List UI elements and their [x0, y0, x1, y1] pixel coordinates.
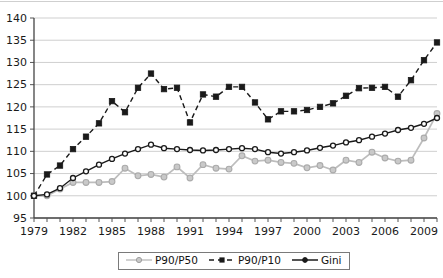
legend-label-p90p10: P90/P10 — [238, 255, 281, 266]
datapoint-p90-p10-1990 — [174, 85, 179, 90]
datapoint-p90-p50-1990 — [174, 164, 180, 170]
datapoint-gini-1994 — [227, 147, 232, 152]
datapoint-p90-p10-1994 — [226, 84, 231, 89]
datapoint-gini-1992 — [201, 148, 206, 153]
datapoint-gini-1987 — [136, 147, 141, 152]
xtick-label: 2000 — [293, 225, 321, 238]
datapoint-p90-p50-2003 — [343, 157, 349, 163]
ytick-label: 105 — [6, 167, 27, 180]
datapoint-gini-2009 — [422, 121, 427, 126]
ytick-label: 110 — [6, 145, 27, 158]
datapoint-p90-p50-2008 — [408, 157, 414, 163]
datapoint-p90-p10-1988 — [148, 71, 153, 76]
xtick-label: 1997 — [254, 225, 282, 238]
datapoint-p90-p50-1991 — [187, 175, 193, 181]
chart-legend: P90/P50 P90/P10 Gini — [118, 252, 350, 270]
datapoint-p90-p10-1997 — [265, 117, 270, 122]
datapoint-p90-p10-2010 — [434, 40, 439, 45]
legend-item-p90p50[interactable]: P90/P50 — [126, 255, 198, 266]
datapoint-p90-p50-2004 — [356, 160, 362, 166]
datapoint-p90-p10-1987 — [135, 85, 140, 90]
datapoint-p90-p10-1983 — [83, 134, 88, 139]
datapoint-gini-1989 — [162, 146, 167, 151]
datapoint-gini-1983 — [84, 169, 89, 174]
datapoint-p90-p10-2002 — [330, 101, 335, 106]
datapoint-p90-p50-2009 — [421, 135, 427, 141]
series-line-p90-p10 — [34, 42, 437, 195]
series-line-p90-p50 — [34, 114, 437, 196]
datapoint-p90-p10-1984 — [96, 121, 101, 126]
legend-label-p90p50: P90/P50 — [155, 255, 198, 266]
datapoint-p90-p10-2008 — [408, 78, 413, 83]
datapoint-p90-p10-2009 — [421, 58, 426, 63]
ytick-label: 95 — [13, 212, 27, 225]
xtick-label: 1994 — [215, 225, 243, 238]
datapoint-gini-1993 — [214, 148, 219, 153]
datapoint-p90-p10-1980 — [44, 172, 49, 177]
ytick-label: 115 — [6, 123, 27, 136]
xtick-label: 1979 — [20, 225, 48, 238]
datapoint-gini-2004 — [357, 138, 362, 143]
datapoint-p90-p50-1988 — [148, 172, 154, 178]
xtick-label: 1988 — [137, 225, 165, 238]
datapoint-gini-2008 — [409, 125, 414, 130]
xtick-label: 1982 — [59, 225, 87, 238]
datapoint-p90-p10-2005 — [369, 85, 374, 90]
datapoint-gini-2005 — [370, 134, 375, 139]
datapoint-gini-1980 — [45, 192, 50, 197]
datapoint-p90-p50-1995 — [239, 153, 245, 159]
datapoint-p90-p10-2000 — [304, 107, 309, 112]
ytick-label: 125 — [6, 78, 27, 91]
ytick-label: 135 — [6, 34, 27, 47]
ytick-label: 100 — [6, 190, 27, 203]
datapoint-gini-1982 — [71, 176, 76, 181]
legend-item-gini[interactable]: Gini — [292, 255, 342, 266]
datapoint-p90-p50-2006 — [382, 155, 388, 161]
datapoint-gini-1988 — [149, 142, 154, 147]
datapoint-p90-p10-1981 — [57, 163, 62, 168]
datapoint-gini-1995 — [240, 146, 245, 151]
datapoint-p90-p50-2005 — [369, 149, 375, 155]
datapoint-gini-2001 — [318, 145, 323, 150]
datapoint-p90-p50-1993 — [213, 165, 219, 171]
legend-item-p90p10[interactable]: P90/P10 — [209, 255, 281, 266]
datapoint-p90-p50-2000 — [304, 165, 310, 171]
datapoint-gini-2002 — [331, 143, 336, 148]
legend-swatch-p90p10 — [209, 255, 235, 265]
datapoint-gini-2006 — [383, 131, 388, 136]
datapoint-p90-p50-1992 — [200, 162, 206, 168]
datapoint-p90-p10-2004 — [356, 86, 361, 91]
datapoint-p90-p10-2007 — [395, 94, 400, 99]
datapoint-p90-p10-1982 — [70, 146, 75, 151]
datapoint-p90-p50-1999 — [291, 160, 297, 166]
datapoint-gini-1981 — [58, 186, 63, 191]
xtick-label: 2006 — [371, 225, 399, 238]
chart-container: 9510010511011512012513013514019791982198… — [0, 0, 443, 278]
xtick-label: 2009 — [410, 225, 438, 238]
top-rule-divider — [0, 1, 443, 2]
datapoint-gini-1996 — [253, 147, 258, 152]
datapoint-gini-1979 — [32, 193, 37, 198]
legend-swatch-gini — [292, 255, 318, 265]
ytick-label: 140 — [6, 12, 27, 25]
datapoint-gini-1986 — [123, 151, 128, 156]
xtick-label: 1985 — [98, 225, 126, 238]
legend-label-gini: Gini — [321, 255, 342, 266]
datapoint-p90-p10-1993 — [213, 94, 218, 99]
datapoint-p90-p50-1983 — [83, 180, 89, 186]
datapoint-p90-p10-1989 — [161, 86, 166, 91]
datapoint-p90-p10-1991 — [187, 120, 192, 125]
datapoint-p90-p10-1992 — [200, 92, 205, 97]
datapoint-p90-p10-1999 — [291, 109, 296, 114]
datapoint-gini-1990 — [175, 147, 180, 152]
datapoint-p90-p10-1986 — [122, 110, 127, 115]
datapoint-p90-p10-1985 — [109, 98, 114, 103]
datapoint-p90-p50-1996 — [252, 158, 258, 164]
datapoint-p90-p50-1986 — [122, 165, 128, 171]
datapoint-p90-p10-1996 — [252, 100, 257, 105]
datapoint-p90-p10-2003 — [343, 93, 348, 98]
datapoint-gini-1998 — [279, 151, 284, 156]
datapoint-p90-p50-2007 — [395, 158, 401, 164]
datapoint-p90-p10-2001 — [317, 104, 322, 109]
ytick-label: 130 — [6, 56, 27, 69]
